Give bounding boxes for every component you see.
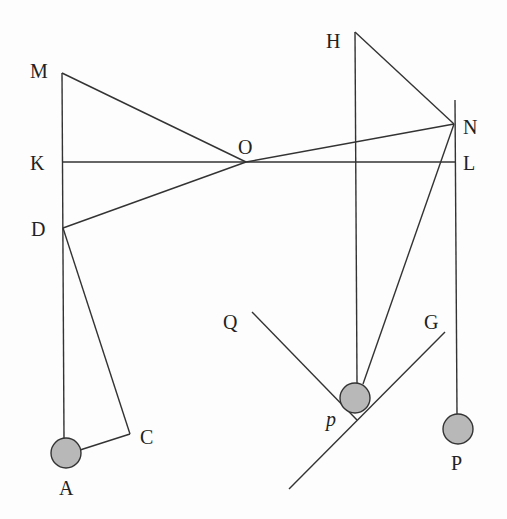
ball-A: [51, 438, 81, 468]
label-M: M: [30, 60, 48, 82]
label-K: K: [30, 152, 45, 174]
line-G: [289, 332, 445, 489]
pendulum-diagram: M K D O H N L Q G p C A P: [0, 0, 507, 519]
line-HN: [355, 32, 454, 124]
ball-P: [443, 414, 473, 444]
line-DC: [63, 228, 130, 434]
label-N: N: [463, 116, 477, 138]
label-D: D: [31, 218, 45, 240]
ball-p: [340, 383, 370, 413]
label-P: P: [451, 452, 462, 474]
label-L: L: [463, 152, 475, 174]
line-MO: [62, 73, 246, 162]
line-ON: [246, 124, 454, 162]
line-MA: [62, 73, 64, 438]
line-Np: [363, 124, 454, 384]
line-DO: [63, 162, 246, 228]
label-H: H: [326, 30, 340, 52]
label-G: G: [424, 311, 438, 333]
diagram-canvas: M K D O H N L Q G p C A P: [0, 0, 507, 519]
line-CA: [80, 434, 130, 450]
label-Q: Q: [223, 311, 238, 333]
label-O: O: [238, 136, 252, 158]
line-NP: [455, 100, 457, 414]
label-C: C: [140, 426, 153, 448]
line-Hp: [355, 32, 357, 383]
label-p: p: [324, 408, 336, 431]
label-A: A: [59, 477, 74, 499]
